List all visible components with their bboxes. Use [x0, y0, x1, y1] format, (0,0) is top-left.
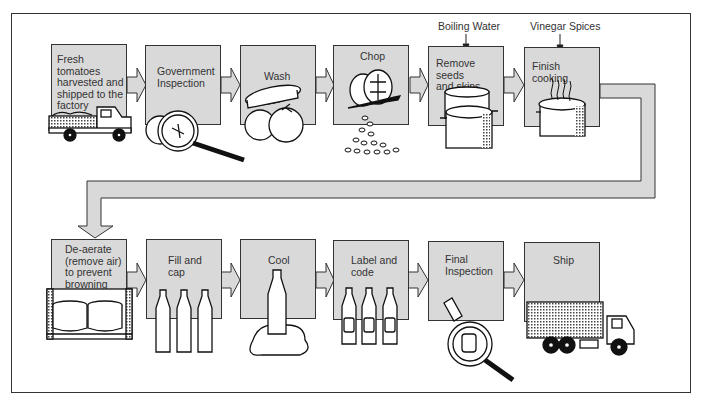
pots-icon: [440, 87, 498, 148]
deaerator-icon: [47, 289, 132, 339]
truck-icon: [49, 107, 131, 141]
labeled-bottles-icon: [342, 288, 397, 344]
illustration-layer: [0, 0, 703, 402]
washing-tomatoes-icon: [244, 81, 303, 142]
bottles-icon: [156, 290, 212, 352]
lorry-icon: [527, 302, 634, 355]
knife-chopped-tomato-icon: [345, 70, 400, 154]
steaming-pot-icon: [536, 78, 585, 136]
magnifier-bottle-icon: [444, 298, 513, 380]
magnifier-tomato-icon: [146, 111, 244, 160]
bottle-on-ice-icon: [250, 270, 308, 355]
